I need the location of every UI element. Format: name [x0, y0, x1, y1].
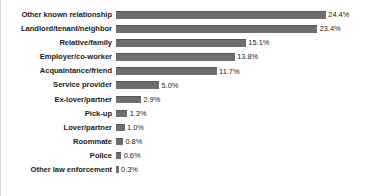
- bar-value-label: 1.0%: [127, 124, 144, 131]
- category-label: Acquaintance/friend: [0, 67, 116, 75]
- category-label: Pick-up: [0, 110, 116, 118]
- bar-value-label: 5.0%: [162, 82, 179, 89]
- bar: [116, 166, 119, 174]
- category-label: Employer/co-worker: [0, 53, 116, 61]
- bar-track: 1.3%: [116, 110, 375, 118]
- bar-track: 2.9%: [116, 96, 375, 104]
- bar-value-label: 0.6%: [124, 152, 141, 159]
- bar-row: Roommate0.8%: [0, 134, 375, 148]
- bar: [116, 25, 317, 33]
- bar-row: Lover/partner1.0%: [0, 120, 375, 134]
- category-label: Landlord/tenant/neighbor: [0, 25, 116, 33]
- bar-value-label: 2.9%: [143, 96, 160, 103]
- bar-row: Police0.6%: [0, 148, 375, 162]
- category-label: Lover/partner: [0, 124, 116, 132]
- bar-value-label: 24.4%: [328, 11, 349, 18]
- category-label: Other known relationship: [0, 11, 116, 19]
- chart-plot-area: Other known relationship24.4%Landlord/te…: [0, 8, 375, 177]
- bar-row: Employer/co-worker13.8%: [0, 50, 375, 64]
- bar-value-label: 1.3%: [130, 110, 147, 117]
- bar: [116, 39, 246, 47]
- bar-row: Service provider5.0%: [0, 78, 375, 92]
- bar: [116, 110, 127, 118]
- bar: [116, 11, 326, 19]
- bar-track: 0.3%: [116, 166, 375, 174]
- bar: [116, 53, 235, 61]
- bar-track: 11.7%: [116, 67, 375, 75]
- bar-track: 13.8%: [116, 53, 375, 61]
- bar: [116, 96, 141, 104]
- bar-row: Relative/family15.1%: [0, 36, 375, 50]
- category-label: Police: [0, 152, 116, 160]
- bar-value-label: 13.8%: [237, 53, 258, 60]
- bar: [116, 81, 159, 89]
- bar-track: 1.0%: [116, 124, 375, 132]
- bar-row: Pick-up1.3%: [0, 106, 375, 120]
- bar: [116, 67, 217, 75]
- bar-row: Other law enforcement0.3%: [0, 163, 375, 177]
- category-label: Relative/family: [0, 39, 116, 47]
- bar-chart: Other known relationship24.4%Landlord/te…: [0, 0, 375, 196]
- bar: [116, 124, 125, 132]
- bar-row: Ex-lover/partner2.9%: [0, 92, 375, 106]
- bar-track: 0.8%: [116, 138, 375, 146]
- bar-value-label: 23.4%: [320, 25, 341, 32]
- category-label: Service provider: [0, 81, 116, 89]
- bar-track: 0.6%: [116, 152, 375, 160]
- category-label: Other law enforcement: [0, 166, 116, 174]
- bar-value-label: 0.3%: [121, 166, 138, 173]
- bar-track: 23.4%: [116, 25, 375, 33]
- bar-value-label: 0.8%: [125, 138, 142, 145]
- bar-value-label: 15.1%: [248, 39, 269, 46]
- bar: [116, 138, 123, 146]
- category-label: Roommate: [0, 138, 116, 146]
- bar: [116, 152, 121, 160]
- bar-row: Other known relationship24.4%: [0, 8, 375, 22]
- bar-track: 24.4%: [116, 11, 375, 19]
- bar-row: Landlord/tenant/neighbor23.4%: [0, 22, 375, 36]
- bar-track: 15.1%: [116, 39, 375, 47]
- bar-value-label: 11.7%: [219, 68, 239, 75]
- bar-track: 5.0%: [116, 81, 375, 89]
- category-label: Ex-lover/partner: [0, 96, 116, 104]
- bar-row: Acquaintance/friend11.7%: [0, 64, 375, 78]
